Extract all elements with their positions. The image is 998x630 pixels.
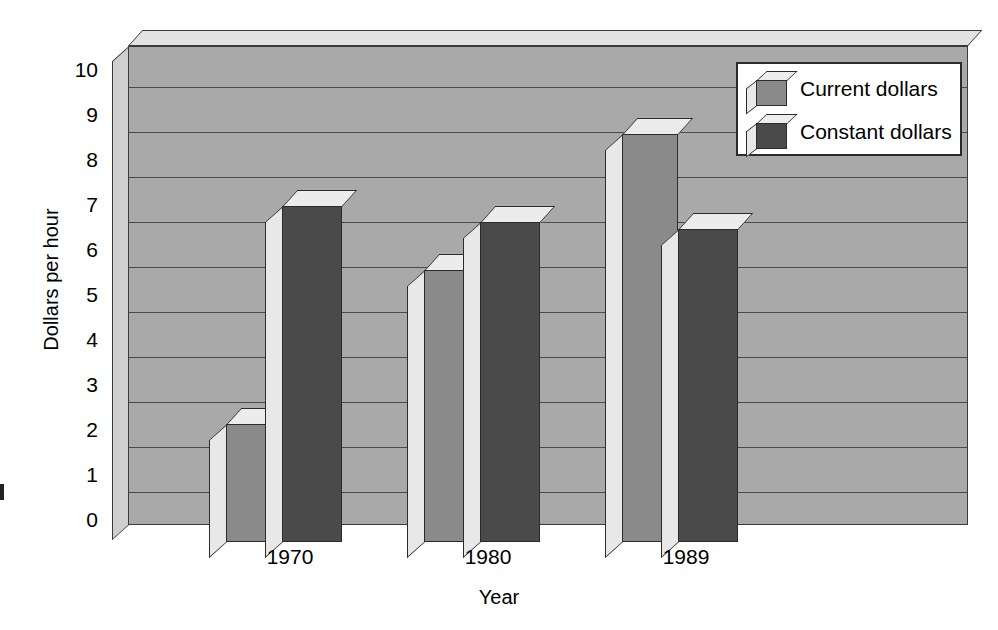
gridline-4 [129,312,967,313]
bar-side-face [209,424,227,558]
current-dollars-cube-icon [746,71,790,107]
cube-front-face [756,123,787,149]
legend-label-current-dollars: Current dollars [800,77,938,101]
bar-side-face [605,134,623,558]
y-tick-4: 4 [56,329,98,350]
legend-item-constant-dollars[interactable]: Constant dollars [746,111,958,152]
bar-chart-figure: Dollars per hour 10 9 8 7 6 5 4 3 2 1 0 [0,0,998,630]
bar-side-face [265,206,283,558]
cube-front-face [756,80,787,106]
bar-side-face [661,229,679,558]
plot-box-top-slab [112,30,968,46]
chart-legend: Current dollars Constant dollars [736,62,962,156]
y-tick-2: 2 [56,419,98,440]
gridline-6 [129,222,967,223]
y-tick-5: 5 [56,284,98,305]
bar-1980-constant-dollars [480,222,540,542]
y-tick-8: 8 [56,149,98,170]
y-tick-7: 7 [56,194,98,215]
bar-front-face [480,222,540,542]
y-tick-6: 6 [56,239,98,260]
bar-front-face [282,206,342,542]
x-tick-1970: 1970 [230,545,350,569]
y-tick-1: 1 [56,464,98,485]
y-axis-tick-labels: 10 9 8 7 6 5 4 3 2 1 0 [14,0,98,630]
plot-box-left-wall [112,46,129,540]
bar-front-face [678,229,738,542]
bar-side-face [463,222,481,558]
gridline-7 [129,177,967,178]
y-tick-10: 10 [56,59,98,80]
legend-item-current-dollars[interactable]: Current dollars [746,68,958,109]
gridline-3 [129,357,967,358]
x-tick-1980: 1980 [428,545,548,569]
bar-1989-constant-dollars [678,229,738,542]
page-edge-artifact [0,484,4,500]
gridline-2 [129,402,967,403]
x-tick-1989: 1989 [626,545,746,569]
y-tick-9: 9 [56,104,98,125]
y-tick-0: 0 [56,509,98,530]
x-axis-title: Year [0,586,998,609]
y-tick-3: 3 [56,374,98,395]
legend-label-constant-dollars: Constant dollars [800,120,952,144]
bar-side-face [407,270,425,558]
constant-dollars-cube-icon [746,114,790,150]
gridline-5 [129,267,967,268]
plot-box-top-face [128,30,982,46]
bar-1970-constant-dollars [282,206,342,542]
